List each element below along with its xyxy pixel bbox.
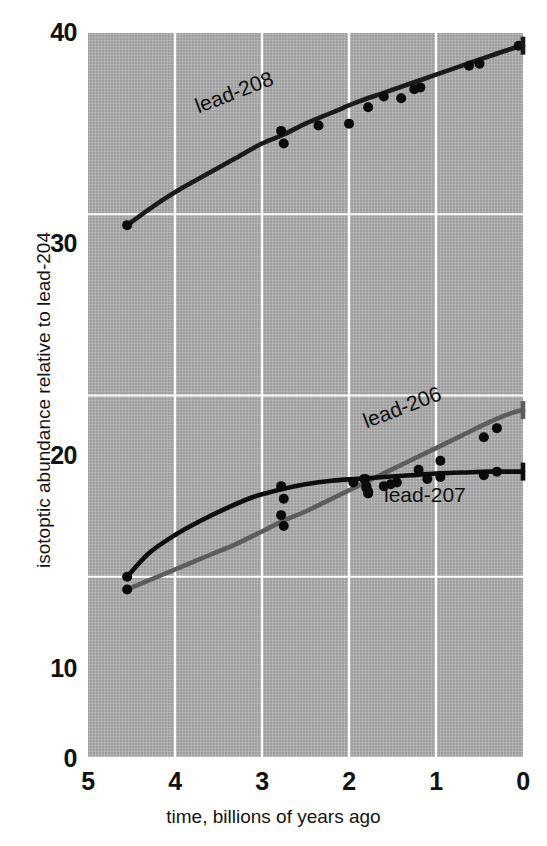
x-tick-label-3: 3 bbox=[242, 767, 282, 796]
x-tick-label-2: 2 bbox=[329, 767, 369, 796]
y-axis-title: isotoptic abundance relative to lead-204 bbox=[33, 80, 55, 720]
x-axis-title: time, billions of years ago bbox=[0, 806, 547, 828]
x-tick-label-1: 1 bbox=[416, 767, 456, 796]
series-label-lead-207: lead-207 bbox=[384, 483, 466, 507]
plot-area bbox=[88, 33, 523, 758]
x-tick-label-5: 5 bbox=[68, 767, 108, 796]
x-tick-label-4: 4 bbox=[155, 767, 195, 796]
y-tick-label-40: 40 bbox=[17, 18, 77, 47]
chart-figure: 40 30 20 10 0 5 4 3 2 1 0 time, billions… bbox=[0, 0, 547, 846]
x-tick-label-0: 0 bbox=[503, 767, 543, 796]
